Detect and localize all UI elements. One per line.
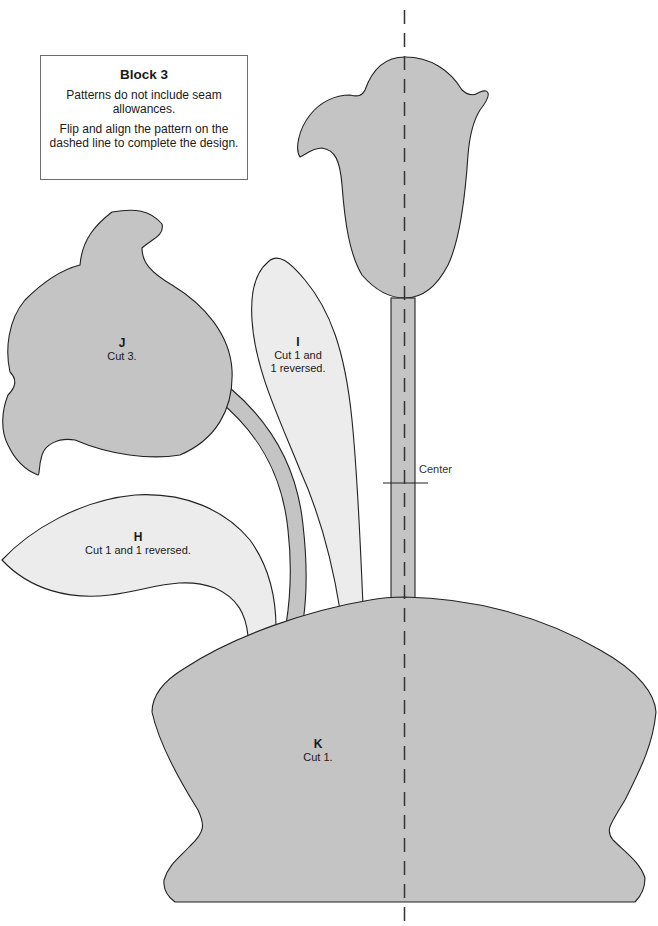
- piece-k-label: K Cut 1.: [293, 738, 343, 764]
- piece-h-letter: H: [78, 531, 198, 544]
- piece-i-letter: I: [262, 336, 334, 349]
- piece-h-instruction: Cut 1 and 1 reversed.: [78, 544, 198, 557]
- piece-i-label: I Cut 1 and 1 reversed.: [262, 336, 334, 375]
- block-title: Block 3: [41, 67, 247, 82]
- piece-j-letter: J: [92, 337, 152, 350]
- piece-h-leaf-shape: [2, 495, 276, 636]
- piece-j-label: J Cut 3.: [92, 337, 152, 363]
- piece-j-instruction: Cut 3.: [92, 350, 152, 363]
- tulip-stem-shape: [391, 298, 415, 598]
- instructions-box: Block 3 Patterns do not include seam all…: [40, 55, 248, 180]
- seam-allowance-note: Patterns do not include seam allowances.: [41, 88, 247, 116]
- center-label: Center: [419, 463, 452, 475]
- piece-k-letter: K: [293, 738, 343, 751]
- piece-i-instruction-1: Cut 1 and: [262, 349, 334, 362]
- piece-tulip-shape: [298, 57, 489, 298]
- piece-k-instruction: Cut 1.: [293, 751, 343, 764]
- pattern-canvas: Block 3 Patterns do not include seam all…: [0, 0, 658, 926]
- piece-i-instruction-2: 1 reversed.: [262, 362, 334, 375]
- piece-h-label: H Cut 1 and 1 reversed.: [78, 531, 198, 557]
- flip-align-note: Flip and align the pattern on the dashed…: [41, 122, 247, 150]
